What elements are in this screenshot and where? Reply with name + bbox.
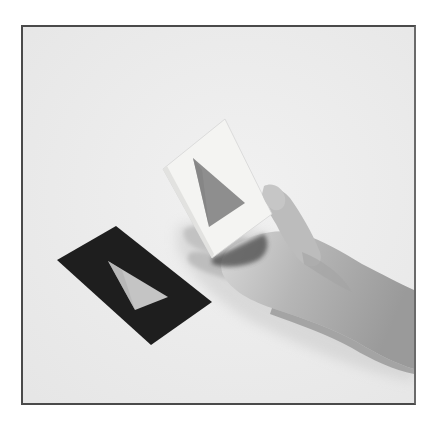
photo (23, 27, 414, 403)
photo-frame (21, 25, 416, 405)
